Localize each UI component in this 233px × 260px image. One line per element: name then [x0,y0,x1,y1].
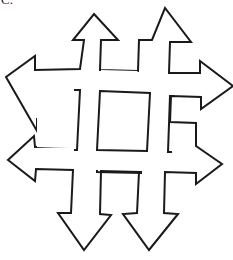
left-rectangle [37,89,80,148]
arrow-grid-figure [0,0,233,260]
center-square [97,91,150,151]
